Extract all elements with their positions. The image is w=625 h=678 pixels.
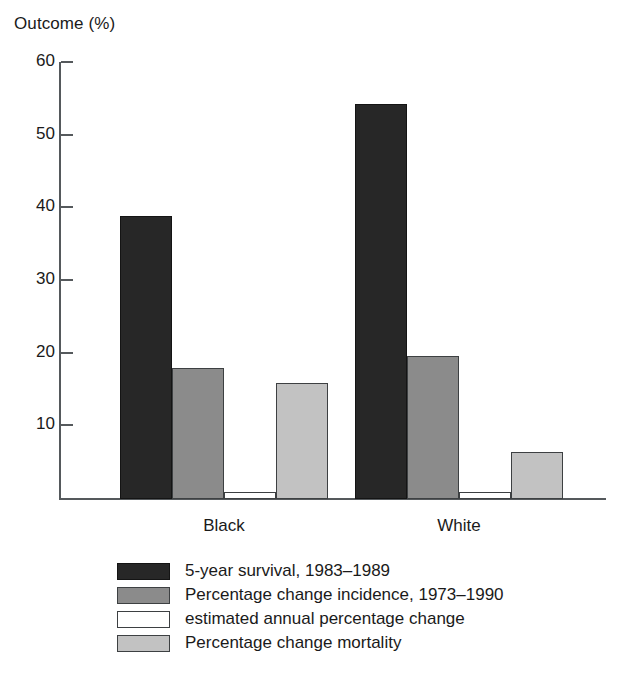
legend-item: Percentage change mortality bbox=[117, 631, 504, 655]
bar-black-series-3 bbox=[276, 383, 328, 499]
legend-label: Percentage change incidence, 1973–1990 bbox=[185, 585, 504, 605]
bars-layer bbox=[59, 62, 606, 499]
legend-label: Percentage change mortality bbox=[185, 633, 401, 653]
bar-white-series-1 bbox=[407, 356, 459, 499]
bar-white-series-3 bbox=[511, 452, 563, 499]
bar-black-series-2 bbox=[224, 492, 276, 499]
y-axis-tick-label: 60 bbox=[36, 51, 55, 71]
category-label-black: Black bbox=[164, 516, 284, 536]
y-axis-tick-label: 50 bbox=[36, 124, 55, 144]
legend-item: Percentage change incidence, 1973–1990 bbox=[117, 583, 504, 607]
legend-item: estimated annual percentage change bbox=[117, 607, 504, 631]
legend-swatch-series-0 bbox=[117, 563, 170, 580]
legend-label: 5-year survival, 1983–1989 bbox=[185, 561, 390, 581]
legend-item: 5-year survival, 1983–1989 bbox=[117, 559, 504, 583]
y-axis-title: Outcome (%) bbox=[14, 14, 115, 34]
bar-black-series-0 bbox=[120, 216, 172, 499]
legend-label: estimated annual percentage change bbox=[185, 609, 465, 629]
category-label-white: White bbox=[399, 516, 519, 536]
bar-white-series-2 bbox=[459, 492, 511, 499]
y-axis-tick-label: 20 bbox=[36, 342, 55, 362]
legend-swatch-series-3 bbox=[117, 635, 170, 652]
chart-legend: 5-year survival, 1983–1989Percentage cha… bbox=[117, 559, 504, 655]
y-axis-tick-label: 10 bbox=[36, 414, 55, 434]
legend-swatch-series-1 bbox=[117, 587, 170, 604]
y-axis-tick-label: 40 bbox=[36, 196, 55, 216]
legend-swatch-series-2 bbox=[117, 611, 170, 628]
bar-white-series-0 bbox=[355, 104, 407, 499]
y-axis-tick-label: 30 bbox=[36, 269, 55, 289]
bar-black-series-1 bbox=[172, 368, 224, 499]
bar-chart-figure: Outcome (%) 605040302010 BlackWhite 5-ye… bbox=[0, 0, 625, 678]
